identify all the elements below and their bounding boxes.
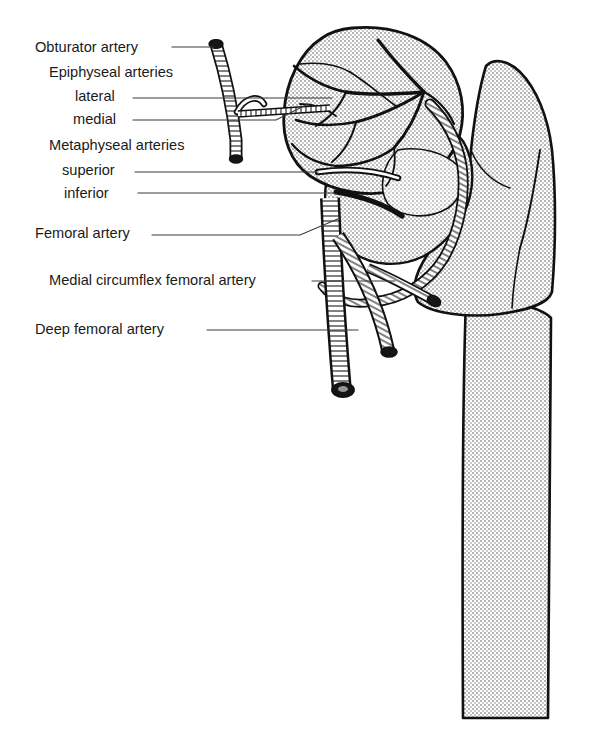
femoral-shaft xyxy=(463,300,551,718)
label-metaphyseal-arteries-heading: Metaphyseal arteries xyxy=(49,138,184,153)
label-deep-femoral-artery: Deep femoral artery xyxy=(35,322,164,337)
label-femoral-artery: Femoral artery xyxy=(35,226,130,241)
label-metaphyseal-inferior: inferior xyxy=(64,186,109,201)
label-metaphyseal-superior: superior xyxy=(62,163,115,178)
label-obturator-artery: Obturator artery xyxy=(35,40,138,55)
obturator-cut-end-distal xyxy=(230,155,243,163)
label-epiphyseal-lateral: lateral xyxy=(75,89,115,104)
label-epiphyseal-arteries-heading: Epiphyseal arteries xyxy=(49,65,173,80)
leader-femoral-artery xyxy=(152,218,340,235)
label-medial-circumflex-femoral: Medial circumflex femoral artery xyxy=(49,273,256,288)
deep-femoral-cut-end xyxy=(381,347,397,357)
label-epiphyseal-medial: medial xyxy=(73,112,116,127)
bone-group xyxy=(284,27,555,718)
